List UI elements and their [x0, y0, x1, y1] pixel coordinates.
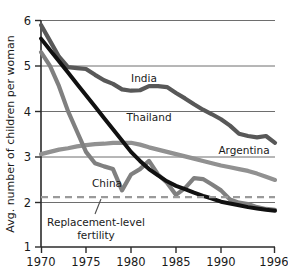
x-tick-label-1985: 1985: [161, 255, 190, 269]
chart-canvas: 6 5 4 3 2 1 1970 1975 1980 1985 1990 199…: [0, 0, 288, 279]
x-tick-label-1980: 1980: [116, 255, 145, 269]
x-tick-label-1996: 1996: [259, 255, 288, 269]
y-tick-label-4: 4: [24, 105, 31, 119]
y-tick-label-6: 6: [24, 14, 31, 28]
y-tick-label-3: 3: [24, 150, 31, 164]
y-tick-label-5: 5: [24, 59, 31, 73]
x-tick-label-1990: 1990: [206, 255, 235, 269]
series-label-argentina: Argentina: [218, 144, 269, 156]
series-label-india: India: [131, 72, 157, 84]
x-tick-label-1970: 1970: [26, 255, 55, 269]
series-label-thailand: Thailand: [125, 111, 171, 123]
y-tick-label-2: 2: [24, 196, 31, 210]
y-tick-label-1: 1: [24, 240, 31, 254]
y-axis-title: Avg. number of children per woman: [4, 35, 17, 232]
series-label-china: China: [92, 177, 122, 189]
replacement-annotation-line1: Replacement-level: [47, 216, 145, 228]
replacement-annotation-line2: fertility: [77, 229, 115, 241]
fertility-line-chart: 6 5 4 3 2 1 1970 1975 1980 1985 1990 199…: [0, 0, 288, 279]
x-tick-label-1975: 1975: [71, 255, 100, 269]
